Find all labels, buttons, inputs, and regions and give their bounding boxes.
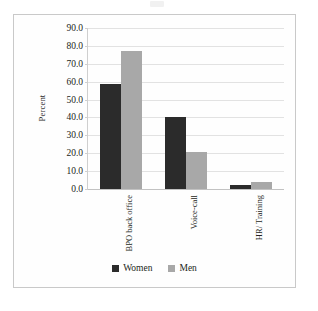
plot-area: 90.080.070.060.050.040.030.020.010.00.0 (87, 28, 284, 189)
legend-swatch-icon (112, 265, 119, 272)
legend-label: Women (123, 263, 152, 273)
bar-group (165, 28, 207, 189)
scan-artifact (150, 1, 164, 7)
gridline (88, 189, 284, 190)
bars-layer (88, 28, 284, 189)
y-axis-tick-label: 70.0 (66, 59, 83, 69)
x-axis-category-label: BPO back office (124, 195, 134, 252)
y-axis-tick-label: 80.0 (66, 41, 83, 51)
bar-men-1 (186, 152, 207, 189)
legend-item-women: Women (112, 263, 152, 273)
bar-men-2 (251, 182, 272, 190)
legend-label: Men (179, 263, 196, 273)
y-axis-title: Percent (37, 78, 47, 138)
y-axis-tick-label: 60.0 (66, 77, 83, 87)
bar-women-0 (100, 84, 121, 189)
y-axis-tick-label: 0.0 (71, 184, 83, 194)
y-axis-tick-label: 50.0 (66, 95, 83, 105)
bar-women-1 (165, 117, 186, 189)
chart-plot-frame: Percent 90.080.070.060.050.040.030.020.0… (13, 14, 296, 288)
x-axis-category-label: HR/ Training (254, 195, 264, 240)
bar-women-2 (230, 185, 251, 189)
y-axis-tick-mark (85, 189, 88, 190)
y-axis-tick-label: 30.0 (66, 130, 83, 140)
bar-group (230, 28, 272, 189)
chart-figure: Percent 90.080.070.060.050.040.030.020.0… (0, 0, 318, 311)
legend-swatch-icon (168, 265, 175, 272)
bar-group (100, 28, 142, 189)
legend-item-men: Men (168, 263, 196, 273)
y-axis-tick-label: 90.0 (66, 23, 83, 33)
bar-men-0 (121, 51, 142, 189)
y-axis-tick-label: 20.0 (66, 148, 83, 158)
y-axis-tick-label: 40.0 (66, 112, 83, 122)
chart-legend: WomenMen (14, 263, 295, 273)
y-axis-tick-label: 10.0 (66, 166, 83, 176)
x-axis-category-label: Voice-call (189, 195, 199, 229)
